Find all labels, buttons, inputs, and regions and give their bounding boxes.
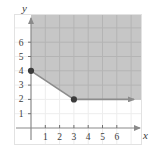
endpoint-dot-0-4 (28, 68, 34, 74)
y-tick-label-2: 2 (15, 95, 27, 105)
y-tick-label-3: 3 (15, 81, 27, 91)
x-tick-label-4: 4 (82, 133, 94, 143)
y-tick-label-6: 6 (15, 39, 27, 49)
y-tick-label-1: 1 (15, 110, 27, 120)
y-tick-label-4: 4 (15, 67, 27, 77)
x-axis-label: x (143, 130, 148, 141)
y-axis-label: y (22, 3, 27, 14)
x-tick-label-3: 3 (68, 133, 80, 143)
x-tick-label-5: 5 (97, 133, 109, 143)
endpoint-dot-3-2 (71, 96, 77, 102)
coordinate-plane-figure: y x 6 5 4 3 2 1 1 2 3 4 5 6 (0, 0, 155, 159)
x-tick-label-1: 1 (39, 133, 51, 143)
y-tick-label-5: 5 (15, 53, 27, 63)
x-tick-label-6: 6 (111, 133, 123, 143)
x-tick-label-2: 2 (54, 133, 66, 143)
